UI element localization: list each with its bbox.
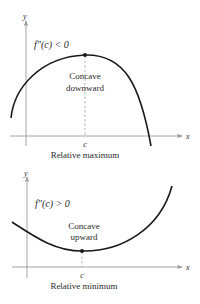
- concavity-label-line1: Concave: [69, 71, 101, 81]
- relative-maximum-point: [83, 53, 87, 57]
- concavity-label-line2: downward: [66, 83, 104, 93]
- relative-minimum-point: [80, 249, 84, 253]
- relative-minimum-panel: y x f″(c) > 0 Concave upward c Relative …: [12, 169, 190, 291]
- point-c-label: c: [83, 140, 87, 149]
- point-c-label: c: [80, 271, 84, 280]
- concavity-label-line1: Concave: [68, 221, 100, 231]
- y-axis-label: y: [22, 12, 27, 21]
- x-axis-label: x: [185, 263, 190, 272]
- caption: Relative maximum: [51, 150, 120, 160]
- condition-label: f″(c) > 0: [35, 198, 70, 210]
- y-axis-label: y: [23, 169, 28, 178]
- x-axis-label: x: [185, 132, 190, 141]
- relative-maximum-panel: y x f″(c) < 0 Concave downward c Relativ…: [10, 12, 190, 160]
- concave-down-curve: [11, 55, 151, 146]
- condition-label: f″(c) < 0: [34, 39, 69, 51]
- caption: Relative minimum: [50, 281, 117, 291]
- concavity-label-line2: upward: [71, 232, 98, 242]
- second-derivative-test-diagram: y x f″(c) < 0 Concave downward c Relativ…: [0, 0, 200, 304]
